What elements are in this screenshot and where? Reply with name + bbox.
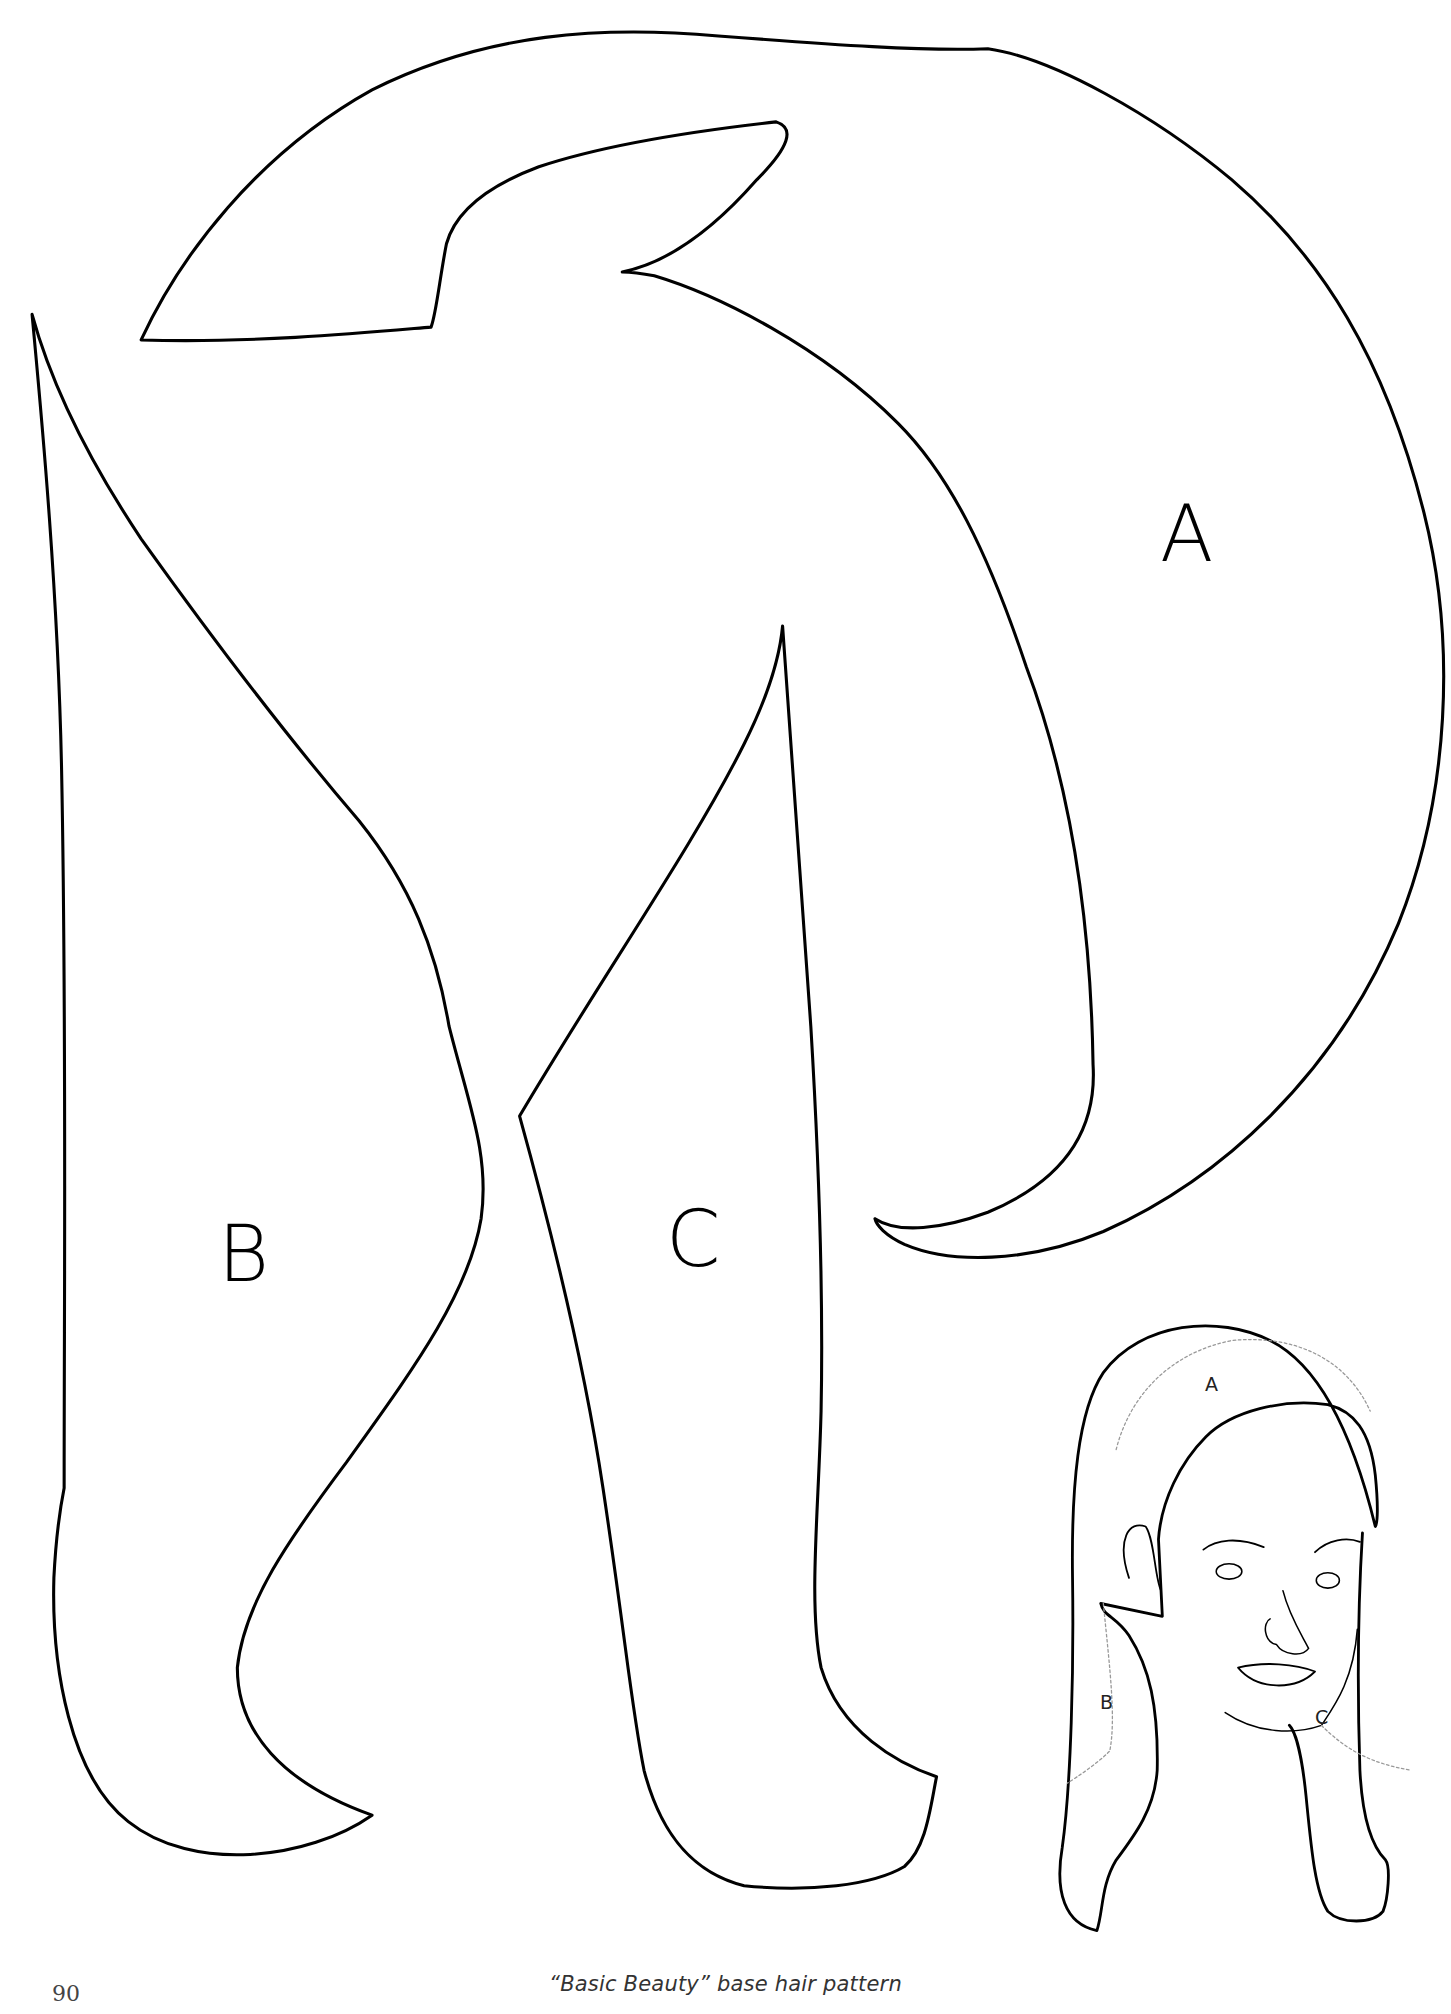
illustration-label-c: C — [1315, 1708, 1328, 1727]
page-number: 90 — [52, 1981, 80, 2006]
figure-caption: “Basic Beauty” base hair pattern — [0, 1972, 1451, 1996]
pattern-piece-b-outline — [32, 314, 483, 1855]
pattern-piece-c-outline — [520, 626, 937, 1888]
illustration-label-b: B — [1100, 1693, 1113, 1712]
illustration-label-a: A — [1205, 1375, 1218, 1394]
pattern-piece-b-label: B — [218, 1215, 269, 1293]
pattern-piece-a-label: A — [1160, 495, 1213, 573]
pattern-page: A B C A B C “Basic Beauty” base hair pat… — [0, 0, 1451, 2014]
pattern-piece-c-label: C — [666, 1200, 720, 1278]
pattern-piece-a-outline — [141, 32, 1444, 1258]
head-illustration — [1060, 1326, 1411, 1931]
hair-pattern-drawing — [0, 0, 1451, 2014]
